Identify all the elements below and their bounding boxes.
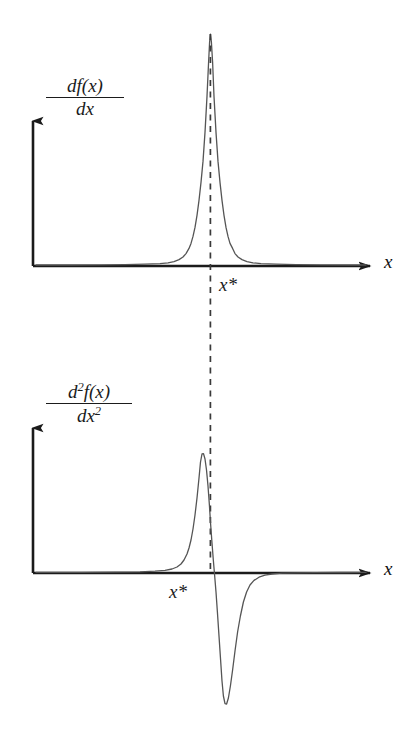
bottom-y-axis-numerator-d: d — [68, 381, 78, 402]
bottom-y-axis-denominator-dx: dx — [77, 406, 95, 427]
bottom-y-axis-numerator-fx: f(x) — [84, 381, 110, 402]
top-y-axis-label: df(x) dx — [46, 76, 124, 119]
top-critical-point-label: x* — [219, 274, 237, 296]
top-curve-df-dx — [36, 34, 366, 265]
derivative-figure: df(x) dx x* x d2f(x) dx2 x* x — [0, 0, 412, 733]
bottom-y-axis-numerator: d2f(x) — [46, 381, 132, 403]
bottom-y-axis-label: d2f(x) dx2 — [46, 381, 132, 427]
top-y-axis-numerator: df(x) — [46, 76, 124, 97]
bottom-panel-plot — [33, 428, 370, 704]
bottom-x-axis-name: x — [384, 558, 392, 580]
top-y-axis-denominator: dx — [46, 98, 124, 119]
bottom-y-axis-denominator-exponent: 2 — [95, 404, 101, 418]
bottom-curve-d2f-dx2 — [36, 454, 366, 704]
bottom-critical-point-label: x* — [169, 581, 187, 603]
top-x-axis-name: x — [384, 251, 392, 273]
bottom-y-axis-denominator: dx2 — [46, 404, 132, 426]
top-panel-plot — [33, 34, 370, 266]
